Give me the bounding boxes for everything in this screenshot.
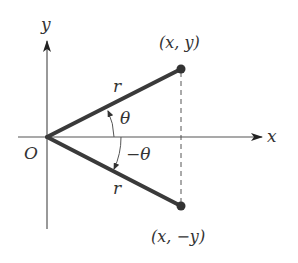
lower-radius-label: r — [113, 178, 122, 198]
neg-theta-arc — [114, 137, 121, 169]
upper-point-label: (x, y) — [159, 33, 200, 52]
upper-point — [177, 65, 186, 74]
theta-arc — [108, 111, 114, 137]
lower-point — [177, 202, 186, 211]
upper-radius-label: r — [113, 76, 122, 96]
theta-label: θ — [120, 108, 130, 128]
y-axis-label: y — [40, 14, 51, 34]
reflection-diagram: y x O (x, y) (x, −y) r r θ −θ — [0, 0, 298, 263]
lower-point-label: (x, −y) — [151, 227, 205, 246]
origin-label: O — [24, 143, 38, 163]
x-axis-label: x — [267, 126, 277, 146]
neg-theta-label: −θ — [126, 144, 150, 164]
